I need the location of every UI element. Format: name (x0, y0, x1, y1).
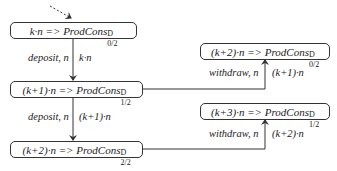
edge-s0-s1-action: deposit, n (28, 52, 69, 63)
edge-s1-s2-value: (k+1)·n (79, 111, 111, 122)
state-s4: (k+3)·n => ProdConsD1/2 (200, 103, 330, 120)
edge-s2-s4-action: withdraw, n (209, 128, 258, 139)
action-label: deposit, n (28, 111, 69, 122)
state-name: ProdCons (265, 106, 309, 118)
state-s0: k·n => ProdConsD0/2 (10, 22, 137, 39)
state-s3: (k+2)·n => ProdConsD0/2 (200, 43, 330, 60)
state-subscript: 2/2 (120, 156, 130, 170)
state-subscript: 0/2 (309, 58, 319, 72)
state-name: ProdCons (265, 46, 309, 58)
action-label: withdraw, n (209, 128, 258, 139)
edge-s1-s3-action: withdraw, n (209, 67, 258, 78)
action-label: deposit, n (28, 52, 69, 63)
value-label: (k+2)·n (272, 128, 304, 139)
state-s2: (k+2)·n => ProdConsD2/2 (10, 141, 143, 158)
value-label: k·n (79, 52, 92, 63)
state-subscript: 1/2 (309, 118, 319, 132)
state-name: ProdCons (63, 25, 107, 37)
edge-s2-s4-value: (k+2)·n (272, 128, 304, 139)
state-expr: (k+2)·n => (211, 46, 262, 58)
state-name: ProdCons (76, 144, 120, 156)
state-expr: k·n => (30, 25, 61, 37)
value-label: (k+1)·n (79, 111, 111, 122)
state-subscript: 0/2 (107, 37, 117, 51)
edge-s0-s1-value: k·n (79, 52, 92, 63)
action-label: withdraw, n (209, 67, 258, 78)
state-s1: (k+1)·n => ProdConsD1/2 (10, 81, 143, 98)
state-name: ProdCons (76, 84, 120, 96)
state-expr: (k+3)·n => (211, 106, 262, 118)
entry-arrow (50, 6, 71, 18)
state-expr: (k+1)·n => (23, 84, 74, 96)
edge-s1-s3-value: (k+1)·n (272, 67, 304, 78)
state-expr: (k+2)·n => (23, 144, 74, 156)
edge-s1-s2-action: deposit, n (28, 111, 69, 122)
state-subscript: 1/2 (120, 96, 130, 110)
value-label: (k+1)·n (272, 67, 304, 78)
